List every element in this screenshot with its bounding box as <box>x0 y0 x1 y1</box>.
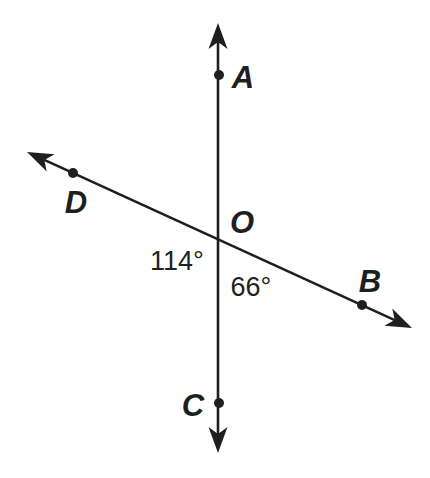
point-C-dot <box>214 398 224 408</box>
point-A-dot <box>214 70 224 80</box>
point-A-label: A <box>231 60 254 95</box>
geometry-diagram-page: ADOBC114°66° <box>0 0 430 478</box>
point-B-dot <box>357 300 367 310</box>
line-DB <box>44 160 394 320</box>
angle-label-66-degrees: 66° <box>231 272 272 302</box>
intersecting-lines-diagram: ADOBC114°66° <box>0 0 430 478</box>
point-B-label: B <box>359 264 381 299</box>
point-O-label: O <box>230 205 254 240</box>
angle-label-114-degrees: 114° <box>150 246 204 276</box>
point-C-label: C <box>182 388 205 423</box>
point-D-label: D <box>65 185 87 220</box>
point-D-dot <box>68 168 78 178</box>
